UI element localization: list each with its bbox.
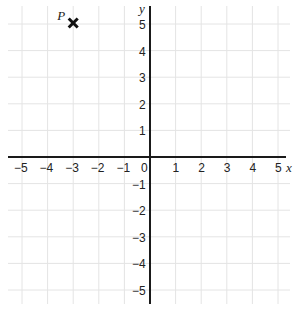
y-tick-label: −4: [132, 257, 146, 271]
point-label: P: [56, 8, 65, 23]
y-tick-label: −2: [132, 204, 146, 218]
y-axis-label: y: [137, 1, 145, 16]
x-tick-label: 1: [173, 161, 180, 175]
y-tick-label: 5: [139, 18, 146, 32]
x-tick-label: −4: [40, 161, 54, 175]
y-tick-label: 3: [139, 71, 146, 85]
coordinate-grid: −5−4−3−2−1012345 54321−1−2−3−4−5 x y P: [0, 0, 298, 316]
x-tick-label: 3: [224, 161, 231, 175]
x-tick-label: −5: [14, 161, 28, 175]
x-axis-label: x: [285, 160, 292, 175]
y-tick-label: −5: [132, 284, 146, 298]
y-tick-label: −3: [132, 231, 146, 245]
plotted-points: P: [56, 8, 77, 28]
x-tick-label: 2: [198, 161, 205, 175]
x-tick-labels: −5−4−3−2−1012345: [14, 161, 282, 175]
x-tick-label: −2: [91, 161, 105, 175]
x-tick-label: −1: [116, 161, 130, 175]
x-tick-label: −3: [65, 161, 79, 175]
x-tick-label: 0: [141, 161, 148, 175]
y-tick-label: −1: [132, 178, 146, 192]
x-tick-label: 4: [249, 161, 256, 175]
x-tick-label: 5: [275, 161, 282, 175]
y-tick-label: 1: [139, 124, 146, 138]
y-tick-label: 4: [139, 45, 146, 59]
y-tick-label: 2: [139, 98, 146, 112]
